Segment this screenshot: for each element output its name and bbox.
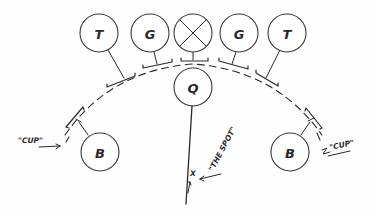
player-label-g-left: G: [145, 27, 156, 42]
player-label-q: Q: [187, 81, 198, 96]
football-formation-diagram: T G G T Q B: [0, 0, 375, 214]
blocker-bracket-b-left: [66, 107, 88, 142]
player-b-right: B: [271, 133, 309, 171]
blocker-bracket-g-right: [219, 52, 248, 69]
player-label-b-left: B: [95, 146, 105, 161]
spot-marker: X: [188, 169, 197, 193]
blocker-bracket-center: [181, 52, 208, 61]
player-g-right: G: [220, 14, 258, 52]
player-label-t-left: T: [95, 27, 105, 42]
player-g-left: G: [131, 14, 169, 52]
the-spot-annotation: "THE SPOT": [200, 125, 238, 181]
cup-label-right: "CUP": [329, 138, 355, 152]
diagram-canvas: T G G T Q B: [0, 0, 375, 214]
player-q: Q: [174, 68, 212, 106]
player-b-left: B: [81, 133, 119, 171]
player-t-right: T: [268, 14, 306, 52]
blocker-bracket-g-left: [143, 52, 172, 68]
blocker-bracket-t-left: [107, 50, 135, 87]
player-t-left: T: [80, 14, 118, 52]
player-label-g-right: G: [234, 27, 245, 42]
arrow-icon: [200, 174, 221, 181]
spot-x-marker: X: [189, 169, 197, 178]
cup-annotation-right: "CUP": [322, 138, 355, 156]
player-label-b-right: B: [285, 146, 295, 161]
player-label-t-right: T: [283, 27, 293, 42]
cup-annotation-left: "CUP": [18, 136, 60, 149]
cup-label-left: "CUP": [18, 136, 43, 145]
the-spot-label: "THE SPOT": [207, 125, 238, 173]
player-center-crossed: [174, 14, 212, 52]
